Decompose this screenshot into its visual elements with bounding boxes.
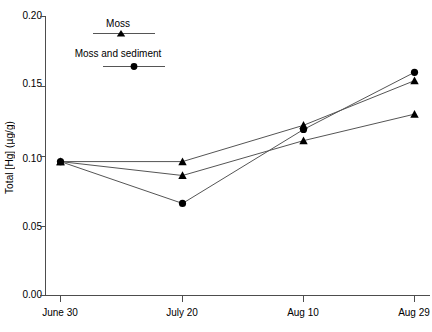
circle-marker-icon — [131, 63, 138, 70]
triangle-marker-icon — [410, 110, 418, 118]
plot-canvas — [0, 0, 432, 332]
series-1-triangle — [56, 110, 418, 179]
circle-marker-icon — [57, 158, 64, 165]
legend-sample-moss — [93, 30, 155, 37]
circle-marker-icon — [179, 200, 186, 207]
triangle-marker-icon — [410, 76, 418, 84]
series-line — [61, 72, 415, 203]
chart-figure: Total [Hg] (µg/g) 0.20 0.15 0.10 0.05 0.… — [0, 0, 432, 332]
series-2-circle — [57, 69, 418, 207]
y-axis-ticks — [40, 17, 46, 296]
circle-marker-icon — [300, 126, 307, 133]
series-line — [61, 81, 415, 162]
x-axis-ticks — [61, 296, 415, 303]
data-series-layer — [56, 69, 418, 207]
series-0-triangle — [56, 76, 418, 165]
legend-sample-moss-and-sediment — [103, 63, 165, 70]
circle-marker-icon — [411, 69, 418, 76]
